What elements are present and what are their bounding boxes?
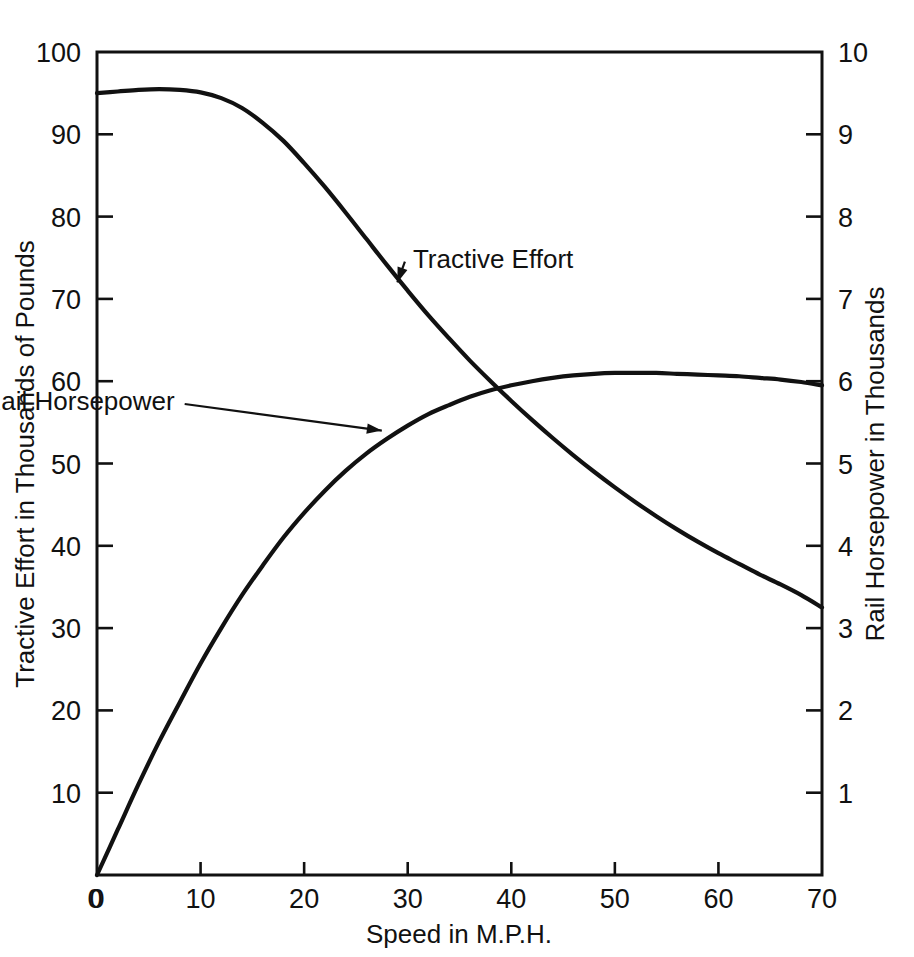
series-annotations: Tractive EffortRail Horsepower <box>0 244 574 434</box>
x-tick-label: 10 <box>186 884 216 914</box>
series-line-rail-horsepower <box>97 373 822 875</box>
y-tick-label: 40 <box>51 532 81 562</box>
y2-tick-label: 9 <box>838 120 853 150</box>
y-tick-label: 80 <box>51 203 81 233</box>
y2-tick-label: 8 <box>838 203 853 233</box>
y-origin-label: 0 <box>87 884 102 914</box>
x-tick-label: 70 <box>807 884 837 914</box>
chart-figure: 010203040506070 1020304050607080901000 1… <box>0 0 914 957</box>
y-tick-label: 50 <box>51 450 81 480</box>
y2-tick-label: 2 <box>838 696 853 726</box>
y-tick-label: 70 <box>51 285 81 315</box>
y2-tick-label: 5 <box>838 450 853 480</box>
x-axis-ticks: 010203040506070 <box>89 862 837 914</box>
y-tick-label: 20 <box>51 696 81 726</box>
y-tick-label: 30 <box>51 614 81 644</box>
plot-frame <box>97 52 822 875</box>
y2-tick-label: 3 <box>838 614 853 644</box>
y-tick-label: 90 <box>51 120 81 150</box>
x-tick-label: 50 <box>600 884 630 914</box>
annotation-leader-line <box>185 404 382 431</box>
x-tick-label: 20 <box>289 884 319 914</box>
y2-tick-label: 4 <box>838 532 853 562</box>
y2-axis-title: Rail Horsepower in Thousands <box>860 286 890 641</box>
annotation-arrow-head <box>366 423 382 433</box>
chart-canvas: 010203040506070 1020304050607080901000 1… <box>0 0 914 957</box>
x-tick-label: 40 <box>496 884 526 914</box>
x-axis-title: Speed in M.P.H. <box>366 919 552 949</box>
x-tick-label: 30 <box>393 884 423 914</box>
y-tick-label: 10 <box>51 779 81 809</box>
y-tick-label: 100 <box>36 38 81 68</box>
y-axis-ticks: 1020304050607080901000 <box>36 38 113 914</box>
y2-tick-label: 10 <box>838 38 868 68</box>
annotation-arrow-head <box>397 267 407 283</box>
y2-tick-label: 7 <box>838 285 853 315</box>
y-axis-title: Tractive Effort in Thousands of Pounds <box>10 240 40 688</box>
y2-tick-label: 6 <box>838 367 853 397</box>
x-tick-label: 60 <box>703 884 733 914</box>
y2-tick-label: 1 <box>838 779 853 809</box>
annotation-label-tractive-effort: Tractive Effort <box>413 244 574 274</box>
series-line-tractive-effort <box>97 89 822 607</box>
y2-axis-ticks: 12345678910 <box>806 38 868 809</box>
